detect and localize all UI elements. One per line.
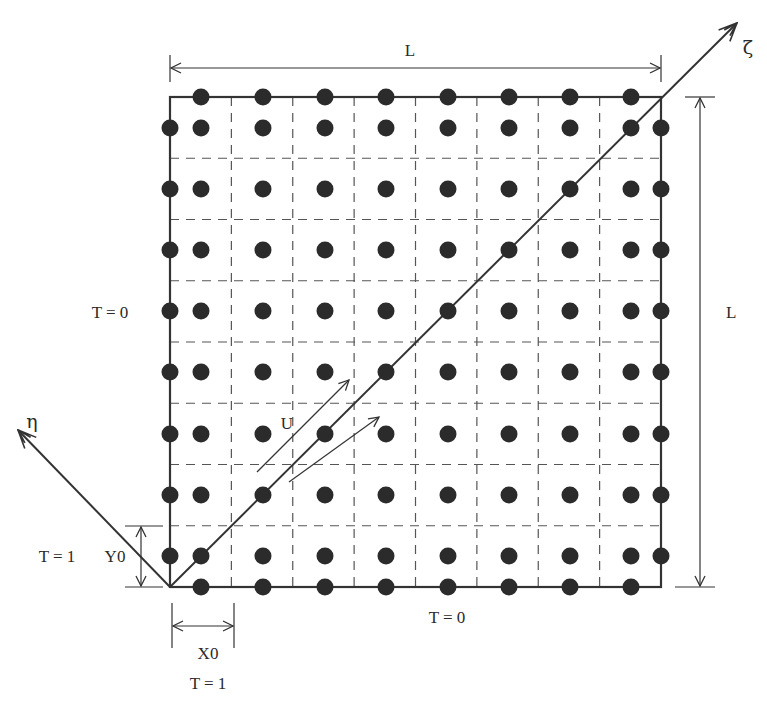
- grid-node: [378, 364, 395, 381]
- grid-node: [378, 548, 395, 565]
- grid-node: [162, 120, 179, 137]
- velocity-label: U: [281, 414, 293, 433]
- grid-node: [255, 364, 272, 381]
- right-length-label: L: [726, 303, 736, 322]
- grid-node: [193, 487, 210, 504]
- grid-node: [623, 120, 640, 137]
- grid-node: [623, 89, 640, 106]
- grid-node: [562, 181, 579, 198]
- grid-node: [193, 548, 210, 565]
- grid-node: [378, 242, 395, 259]
- grid-node: [255, 89, 272, 106]
- grid-node: [162, 242, 179, 259]
- grid-node: [562, 487, 579, 504]
- x0-dimension-line: [172, 603, 234, 648]
- top-length-label: L: [405, 41, 415, 60]
- grid-node: [440, 426, 457, 443]
- grid-node: [501, 487, 518, 504]
- x0-label: X0: [198, 644, 219, 663]
- grid-node: [193, 242, 210, 259]
- grid-node: [378, 426, 395, 443]
- grid-node: [162, 181, 179, 198]
- grid-node: [317, 487, 334, 504]
- grid-node: [440, 487, 457, 504]
- bottom-inlet-temp-label: T = 1: [190, 674, 227, 693]
- grid-node: [623, 487, 640, 504]
- grid-node: [562, 364, 579, 381]
- left-boundary-temp-label: T = 0: [92, 303, 129, 322]
- grid-node: [193, 303, 210, 320]
- zeta-label: ζ: [743, 36, 753, 58]
- grid-node: [501, 364, 518, 381]
- grid-node: [562, 303, 579, 320]
- grid-node: [193, 426, 210, 443]
- grid-node: [653, 487, 670, 504]
- grid-node: [193, 89, 210, 106]
- grid-node: [378, 487, 395, 504]
- grid-node: [317, 548, 334, 565]
- grid-node: [653, 426, 670, 443]
- top-dimension-line: [170, 55, 661, 82]
- grid-node: [562, 579, 579, 596]
- grid-node: [440, 181, 457, 198]
- grid-node: [501, 120, 518, 137]
- y0-label: Y0: [105, 547, 126, 566]
- grid-node: [440, 548, 457, 565]
- grid-node: [562, 89, 579, 106]
- grid-node: [440, 242, 457, 259]
- grid-node: [317, 303, 334, 320]
- grid-node: [162, 364, 179, 381]
- grid-node: [653, 181, 670, 198]
- grid-node: [623, 426, 640, 443]
- grid-node: [562, 548, 579, 565]
- grid-node: [501, 242, 518, 259]
- grid-diagram: L L T = 0 T = 0 T = 1 Y0 X0 T = 1 U ζ η: [0, 0, 767, 705]
- grid-node: [440, 364, 457, 381]
- grid-node: [193, 364, 210, 381]
- grid-node: [255, 487, 272, 504]
- grid-node: [162, 426, 179, 443]
- grid-node: [653, 548, 670, 565]
- grid-node: [653, 303, 670, 320]
- grid-node: [255, 303, 272, 320]
- grid-node: [317, 181, 334, 198]
- grid-node: [255, 579, 272, 596]
- grid-node: [562, 426, 579, 443]
- grid-node: [440, 120, 457, 137]
- grid-node: [255, 548, 272, 565]
- grid-node: [317, 242, 334, 259]
- grid-node: [193, 181, 210, 198]
- grid-node: [440, 303, 457, 320]
- grid-node: [378, 89, 395, 106]
- grid-node: [501, 426, 518, 443]
- grid-node: [623, 548, 640, 565]
- grid-node: [562, 120, 579, 137]
- flow-arrow-upper: [257, 380, 349, 472]
- left-inlet-temp-label: T = 1: [39, 547, 76, 566]
- grid-node: [317, 89, 334, 106]
- grid-node: [501, 303, 518, 320]
- grid-node: [623, 303, 640, 320]
- grid-node: [317, 364, 334, 381]
- grid-node: [501, 548, 518, 565]
- grid-node: [501, 89, 518, 106]
- grid-node: [317, 426, 334, 443]
- bottom-boundary-temp-label: T = 0: [429, 608, 466, 627]
- grid-node: [255, 120, 272, 137]
- grid-node: [623, 242, 640, 259]
- grid-node: [378, 303, 395, 320]
- grid-node: [162, 487, 179, 504]
- grid-node: [317, 120, 334, 137]
- grid-node: [501, 579, 518, 596]
- grid-node: [162, 548, 179, 565]
- eta-label: η: [26, 410, 37, 432]
- grid-node: [193, 579, 210, 596]
- grid-node: [440, 89, 457, 106]
- grid-node: [378, 181, 395, 198]
- grid-node: [440, 579, 457, 596]
- grid-node: [193, 120, 210, 137]
- grid-node: [623, 181, 640, 198]
- grid-node: [653, 120, 670, 137]
- grid-node: [378, 579, 395, 596]
- grid-node: [255, 426, 272, 443]
